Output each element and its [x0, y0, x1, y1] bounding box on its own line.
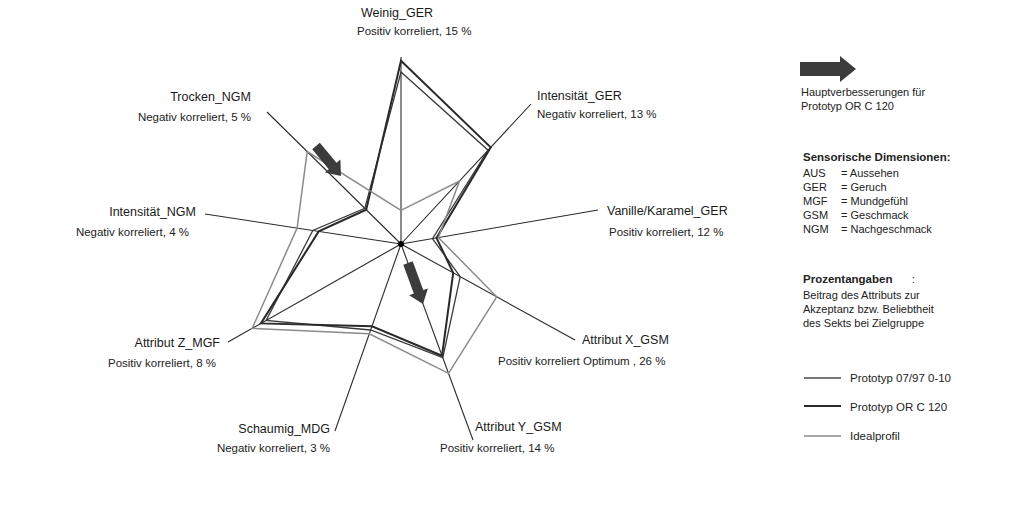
legend-pct-text-1: Beitrag des Attributs zur	[803, 288, 934, 302]
axis-label-intensitaet-ngm: Intensität_NGM	[109, 205, 196, 220]
axis-note-intensitaet-ger: Negativ korreliert, 13 %	[537, 107, 657, 121]
axis-note-attribut-z: Positiv korreliert, 8 %	[108, 356, 216, 370]
radar-series-polygon	[261, 61, 491, 356]
legend-dim-row: AUS= Aussehen	[803, 166, 951, 180]
radar-series	[252, 61, 497, 374]
dim-abbr: GSM	[803, 208, 841, 222]
legend-series-prototyp-0797: Prototyp 07/97 0-10	[850, 371, 951, 385]
axis-note-attribut-x: Positiv korreliert Optimum , 26 %	[498, 354, 665, 368]
dim-abbr: GER	[803, 180, 841, 194]
dim-abbr: NGM	[803, 222, 841, 236]
radar-axis-line	[401, 104, 531, 244]
dim-meaning: = Nachgeschmack	[841, 222, 932, 236]
axis-label-vanille: Vanille/Karamel_GER	[607, 204, 728, 219]
legend-dim-row: MGF= Mundgefühl	[803, 194, 951, 208]
axis-label-trocken: Trocken_NGM	[170, 90, 251, 105]
axis-note-schaumig: Negativ korreliert, 3 %	[217, 441, 330, 455]
dim-abbr: AUS	[803, 166, 841, 180]
axis-label-intensitaet-ger: Intensität_GER	[537, 89, 622, 104]
legend-arrow-caption: Hauptverbesserungen für Prototyp OR C 12…	[801, 85, 925, 113]
axis-label-attribut-z: Attribut Z_MGF	[135, 336, 220, 351]
legend-arrow-text-1: Hauptverbesserungen für	[801, 85, 925, 99]
legend-series-prototyp-orc120: Prototyp OR C 120	[850, 400, 947, 414]
axis-label-schaumig: Schaumig_MDG	[238, 422, 330, 437]
dim-meaning: = Aussehen	[841, 166, 899, 180]
legend-pct-text-3: des Sekts bei Zielgruppe	[803, 316, 934, 330]
axis-label-attribut-x: Attribut X_GSM	[582, 333, 669, 348]
radar-center-dot	[398, 241, 404, 247]
radar-series-polygon	[252, 152, 497, 374]
dim-abbr: MGF	[803, 194, 841, 208]
legend-series-idealprofil: Idealprofil	[850, 429, 900, 443]
radar-axis-line	[401, 210, 598, 244]
radar-axis-line	[205, 214, 401, 244]
dim-meaning: = Geschmack	[841, 208, 909, 222]
legend-dim-row: GER= Geruch	[803, 180, 951, 194]
legend-percentages-heading: Prozentangaben :	[803, 272, 934, 286]
axis-note-attribut-y: Positiv korreliert, 14 %	[440, 441, 554, 455]
axis-note-trocken: Negativ korreliert, 5 %	[138, 110, 251, 124]
dim-meaning: = Geruch	[841, 180, 887, 194]
legend-dim-row: NGM= Nachgeschmack	[803, 222, 951, 236]
legend-dimensions-heading: Sensorische Dimensionen:	[803, 150, 951, 164]
legend-dimensions: Sensorische Dimensionen: AUS= Aussehen G…	[803, 150, 951, 236]
axis-note-intensitaet-ngm: Negativ korreliert, 4 %	[76, 225, 189, 239]
dim-meaning: = Mundgefühl	[841, 194, 908, 208]
axis-label-weinig: Weinig_GER	[361, 6, 433, 21]
axis-note-vanille: Positiv korreliert, 12 %	[609, 225, 723, 239]
legend-arrow-icon	[800, 56, 856, 82]
legend-percentages: Prozentangaben : Beitrag des Attributs z…	[803, 272, 934, 330]
radar-axis-line	[401, 244, 575, 340]
legend-arrow-text-2: Prototyp OR C 120	[801, 99, 925, 113]
axis-label-attribut-y: Attribut Y_GSM	[475, 420, 562, 435]
axis-note-weinig: Positiv korreliert, 15 %	[357, 24, 471, 38]
legend-dim-row: GSM= Geschmack	[803, 208, 951, 222]
improvement-arrow-icon	[403, 261, 428, 304]
legend-pct-text-2: Akzeptanz bzw. Beliebtheit	[803, 302, 934, 316]
